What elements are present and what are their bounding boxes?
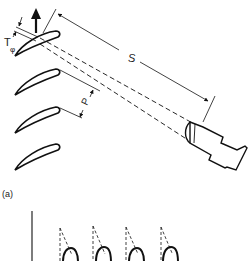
pitch-label: P xyxy=(79,96,92,107)
panel-b xyxy=(32,211,178,261)
diagram-canvas: T φ P S (a) xyxy=(0,0,251,261)
panel-a-label: (a) xyxy=(2,189,13,199)
blade-profile-4 xyxy=(163,247,178,261)
blade-4 xyxy=(15,144,60,170)
spacing-label: S xyxy=(128,52,136,64)
beam-lines xyxy=(40,38,196,140)
blade-profile-1 xyxy=(63,248,78,261)
blade-2 xyxy=(15,69,60,95)
panel-a: T φ P S (a) xyxy=(2,8,247,199)
blade-3 xyxy=(15,107,60,133)
rotation-arrow-icon xyxy=(31,8,41,33)
probe-icon xyxy=(186,122,248,170)
thickness-dimension xyxy=(13,17,38,41)
blade-profile-2 xyxy=(96,247,111,261)
pitch-dimension xyxy=(60,70,100,118)
spacing-dimension xyxy=(43,9,215,122)
blade-row xyxy=(15,31,60,170)
thickness-subscript: φ xyxy=(10,45,15,54)
